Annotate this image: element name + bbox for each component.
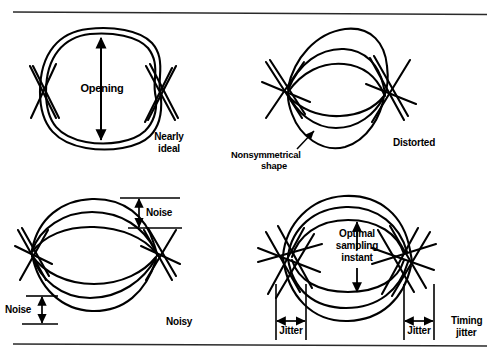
jitter-right-label: Jitter [400, 325, 438, 336]
panel-distorted [262, 29, 416, 149]
nearly-ideal-caption-line2: ideal [140, 143, 198, 154]
timing-jitter-line1: Timing [451, 315, 482, 326]
bottom-rule [13, 344, 487, 346]
nonsymmetrical-shape-line1: Nonsymmetrical [231, 150, 301, 160]
nearly-ideal-caption-line1: Nearly [140, 131, 198, 142]
top-rule [13, 12, 487, 15]
optimal-sampling-line2: sampling [325, 240, 389, 251]
opening-label: Opening [71, 82, 133, 94]
timing-jitter-line2: jitter [456, 327, 476, 338]
trace-distorted-outer-lower [288, 96, 384, 148]
trace-noisy-mid-upper [32, 212, 155, 251]
trace-jitter-inner-lower [292, 260, 404, 292]
noise-top-label: Noise [146, 207, 172, 218]
noise-bottom-label: Noise [5, 304, 31, 315]
crossing-left-2 [33, 66, 59, 118]
trace-distorted-inner-upper [288, 64, 384, 94]
optimal-sampling-line3: instant [325, 252, 389, 263]
eye-diagram-figure [0, 0, 500, 359]
optimal-sampling-line1: Optimal [325, 228, 389, 239]
nonsymmetrical-shape-line2: shape [231, 161, 317, 171]
jitter-left-label: Jitter [272, 325, 310, 336]
trace-noisy-inner-upper [32, 227, 155, 252]
noisy-caption: Noisy [166, 316, 192, 327]
crossing-right-4 [145, 68, 172, 122]
distorted-caption: Distorted [393, 137, 435, 148]
